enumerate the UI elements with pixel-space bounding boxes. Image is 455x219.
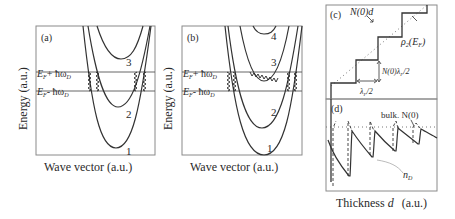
panel-d-density-curve — [328, 128, 437, 176]
panel-c-step-width-arrow — [357, 79, 377, 83]
panel-c-frame — [326, 5, 437, 99]
panel-a-upper-energy-label: EF+ ħωD — [36, 68, 72, 80]
panel-c-stair-label-arrow — [412, 16, 417, 21]
panel-a-band-label-2: 2 — [126, 108, 132, 120]
panel-c-bulk-label: N(0)d — [349, 6, 374, 18]
panel-c-step-height-arrow — [377, 61, 381, 82]
panel-c-step-height-label: N(0)λF/2 — [381, 67, 409, 77]
panel-d: (d) bulk. N(0) nD Thickness d(a.u.) — [326, 99, 437, 210]
panel-b-coupling-right-2 — [294, 72, 297, 91]
panel-b-band-label-4: 4 — [271, 30, 277, 42]
panel-a-band-3 — [97, 26, 143, 59]
panel-b-label: (b) — [187, 32, 199, 44]
panel-b-coupling-left-1 — [227, 72, 230, 91]
panel-d-curve-label: nD — [403, 169, 413, 181]
panel-cd-x-axis-label: Thickness d(a.u.) — [336, 196, 427, 210]
panel-d-curve-label-arrow — [377, 160, 403, 173]
panel-c-step-width-label: λF/2 — [359, 87, 373, 97]
panel-b-x-axis-label: Wave vector (a.u.) — [190, 160, 278, 174]
figure-canvas: (a) 3 2 1 EF+ ħωD EF- ħωD Energy (a.u.) … — [0, 0, 455, 219]
panel-a-band-label-3: 3 — [126, 56, 132, 68]
panel-d-bulk-label: bulk. N(0) — [381, 110, 419, 120]
panel-a-band-1 — [83, 26, 151, 148]
panel-c-staircase-label: ρ2(EF) — [400, 36, 426, 48]
panel-a-x-axis-label: Wave vector (a.u.) — [44, 160, 132, 174]
panel-a-label: (a) — [41, 32, 52, 44]
panel-d-bulk-label-arrow — [411, 120, 414, 126]
panel-c: (c) N(0)d ρ2(EF) N(0)λF/2 λF/2 — [326, 5, 437, 99]
panel-a-y-axis-label: Energy (a.u.) — [16, 67, 30, 130]
panel-b-lower-energy-label: EF- ħωD — [182, 86, 215, 98]
panel-b-band-label-1: 1 — [267, 142, 273, 154]
panel-a: (a) 3 2 1 EF+ ħωD EF- ħωD Energy (a.u.) … — [16, 26, 155, 174]
panel-b: (b) 4 3 2 1 EF+ ħωD EF- ħωD Energy (a.u.… — [161, 26, 302, 174]
panel-d-label: (d) — [331, 103, 343, 115]
panel-c-label: (c) — [330, 9, 341, 21]
panel-b-y-axis-label: Energy (a.u.) — [161, 67, 175, 130]
panel-b-band-label-2: 2 — [271, 106, 277, 118]
panel-b-band-label-3: 3 — [271, 56, 277, 68]
panel-b-upper-energy-label: EF+ ħωD — [182, 68, 218, 80]
panel-a-band-label-1: 1 — [126, 145, 132, 157]
panel-a-lower-energy-label: EF- ħωD — [36, 86, 69, 98]
panel-b-band-1 — [225, 26, 302, 155]
panel-c-staircase-dos — [331, 5, 427, 99]
